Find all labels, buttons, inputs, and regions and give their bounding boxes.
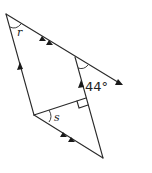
double-arrow-icon (39, 36, 46, 41)
angle-label-r: r (17, 26, 23, 39)
arrowhead-icon (115, 79, 123, 85)
geometry-diagram: r 44° s (0, 0, 152, 173)
angle-arc-s (49, 110, 51, 122)
angle-label-44: 44° (85, 79, 108, 94)
single-arrow-icon (78, 80, 84, 88)
single-arrow-icon (17, 62, 23, 70)
angle-arc-44 (78, 65, 88, 69)
top-transversal-line (6, 14, 121, 84)
right-angle-marker (77, 101, 88, 108)
angle-label-s: s (54, 111, 60, 124)
